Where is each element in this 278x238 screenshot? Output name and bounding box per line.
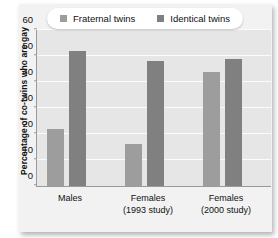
y-tick-label: 10 bbox=[22, 144, 33, 155]
bar-fraternal bbox=[47, 129, 64, 186]
legend-label: Identical twins bbox=[170, 13, 230, 24]
legend-item-fraternal: Fraternal twins bbox=[60, 13, 135, 24]
bar-identical bbox=[147, 61, 164, 186]
x-label-line1: Males bbox=[58, 193, 82, 203]
bar-fraternal bbox=[125, 144, 142, 186]
bar-chart-figure: Percentage of co-twins who are gay 01020… bbox=[0, 0, 278, 238]
x-label-line1: Females bbox=[131, 193, 166, 203]
bar-group: Males bbox=[37, 30, 115, 186]
x-label-line2: (2000 study) bbox=[183, 205, 269, 217]
y-tick-label: 60 bbox=[22, 14, 33, 25]
x-axis-label: Females(2000 study) bbox=[183, 193, 269, 216]
y-tick-label: 40 bbox=[22, 66, 33, 77]
legend-swatch-icon bbox=[157, 15, 164, 22]
x-axis-label: Males bbox=[27, 193, 113, 205]
plot-area: 0102030405060 MalesFemales(1993 study)Fe… bbox=[36, 30, 271, 187]
y-tick-label: 30 bbox=[22, 92, 33, 103]
y-tick-label: 50 bbox=[22, 40, 33, 51]
legend-swatch-icon bbox=[60, 15, 67, 22]
bar-identical bbox=[225, 59, 242, 186]
bar-group: Females(1993 study) bbox=[115, 30, 193, 186]
chart-legend: Fraternal twinsIdentical twins bbox=[47, 8, 243, 29]
y-tick-label: 20 bbox=[22, 118, 33, 129]
legend-label: Fraternal twins bbox=[73, 13, 135, 24]
y-tick-label: 0 bbox=[28, 170, 33, 181]
x-label-line2: (1993 study) bbox=[105, 205, 191, 217]
legend-item-identical: Identical twins bbox=[157, 13, 230, 24]
bar-group: Females(2000 study) bbox=[193, 30, 271, 186]
x-axis-label: Females(1993 study) bbox=[105, 193, 191, 216]
bar-identical bbox=[69, 51, 86, 186]
x-label-line1: Females bbox=[209, 193, 244, 203]
bar-fraternal bbox=[203, 72, 220, 186]
